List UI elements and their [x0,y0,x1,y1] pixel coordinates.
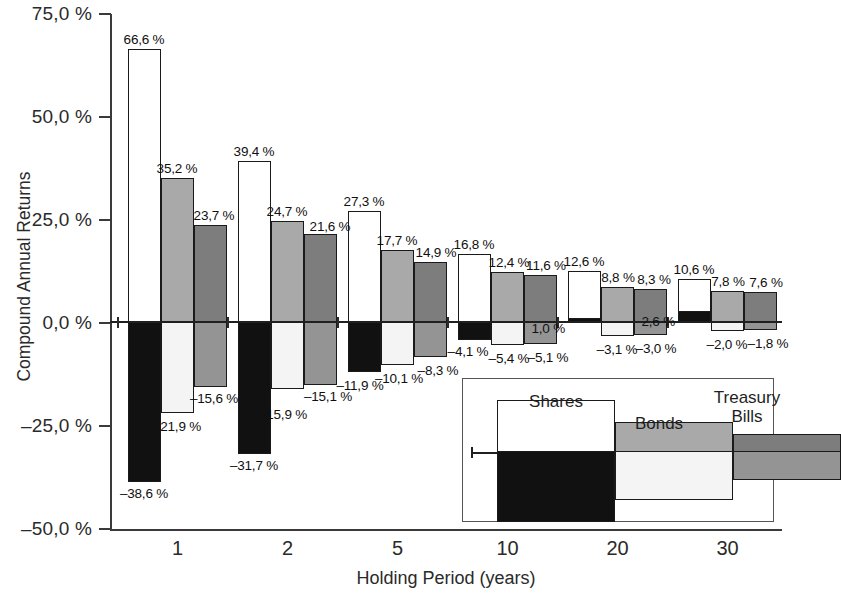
x-axis-tick-label: 10 [478,537,538,560]
x-axis-tick-label: 2 [258,537,318,560]
x-axis-tick [447,317,449,328]
bar-bonds-1-upper [161,178,194,323]
bar-bills-10-upper [524,275,557,323]
value-label-bonds-1-max: 35,2 % [157,161,198,176]
bar-shares-10-upper [458,254,491,323]
bar-bonds-20-lower [601,323,634,336]
value-label-bills-2-min: –15,1 % [304,389,352,404]
value-label-shares-1-max: 66,6 % [124,32,165,47]
bar-shares-1-upper [128,49,161,323]
value-label-bills-5-max: 14,9 % [416,245,457,260]
bar-bills-30-upper [744,292,777,323]
value-label-bills-1-max: 23,7 % [194,208,235,223]
y-axis-tick-label: 50,0 % [0,106,92,128]
bar-bonds-30-upper [711,291,744,323]
value-label-bonds-10-min: –5,4 % [489,351,530,366]
legend-label-treasury: TreasuryBills [688,388,806,426]
value-label-bills-30-min: –1,8 % [748,336,789,351]
bar-shares-30-upper [678,279,711,312]
value-label-shares-5-max: 27,3 % [344,194,385,209]
value-label-bonds-30-min: –2,0 % [707,337,748,352]
bar-bonds-5-upper [381,250,414,323]
value-label-shares-2-max: 39,4 % [234,144,275,159]
x-axis-tick-label: 20 [588,537,648,560]
bar-shares-2-upper [238,161,271,323]
value-label-shares-10-min: –4,1 % [448,344,489,359]
value-label-bills-30-max: 7,6 % [749,275,783,290]
y-axis-tick-label: 25,0 % [0,209,92,231]
bar-bonds-5-lower [381,323,414,365]
bar-shares-20-upper [568,271,601,319]
y-axis-tick-label: –25,0 % [0,415,92,437]
x-axis-tick-label: 30 [698,537,758,560]
x-axis-title: Holding Period (years) [110,568,782,589]
bar-shares-2-lower [238,323,271,454]
value-label-shares-1-min: –38,6 % [120,486,168,501]
value-label-bonds-20-min: –3,1 % [597,342,638,357]
x-axis-tick-label: 5 [368,537,428,560]
value-label-shares-20-max: 12,6 % [564,254,605,269]
bar-bonds-10-upper [491,272,524,323]
value-label-shares-20-min: 1,0 % [531,321,565,336]
bar-bills-30-lower [744,323,777,330]
legend-baseline-tick [471,447,473,458]
y-axis-tick [99,13,111,15]
bar-bills-1-lower [194,323,227,387]
value-label-shares-30-max: 10,6 % [674,262,715,277]
legend-label-shares: Shares [497,392,615,412]
value-label-bills-20-max: 8,3 % [637,272,671,287]
value-label-bills-10-max: 11,6 % [526,258,566,273]
bar-bills-5-upper [414,262,447,323]
legend-swatch-upper-2 [733,434,841,452]
value-label-bills-1-min: –15,6 % [190,391,238,406]
value-label-bonds-1-min: –21,9 % [153,419,201,434]
value-label-bonds-5-min: –10,1 % [375,371,423,386]
value-label-shares-10-max: 16,8 % [454,237,495,252]
zero-baseline [110,321,782,323]
value-label-bills-2-max: 21,6 % [310,219,351,234]
value-label-shares-2-min: –31,7 % [230,458,278,473]
bar-shares-10-lower [458,323,491,340]
y-axis-title: Compound Annual Returns [14,107,35,447]
bar-bonds-2-lower [271,323,304,389]
value-label-shares-30-min: 2,6 % [641,314,675,329]
bar-bills-1-upper [194,225,227,323]
bar-bonds-2-upper [271,221,304,323]
bar-bills-2-lower [304,323,337,385]
x-axis-tick [117,317,119,328]
legend-swatch-lower-0 [497,452,615,522]
y-axis-tick [99,219,111,221]
y-axis-line [110,14,112,530]
value-label-bills-10-min: –5,1 % [528,350,569,365]
bar-bonds-10-lower [491,323,524,345]
y-axis-tick-label: –50,0 % [0,518,92,540]
legend-swatch-lower-2 [733,452,841,480]
y-axis-tick [99,425,111,427]
value-label-bonds-2-min: –15,9 % [259,407,307,422]
y-axis-tick [99,116,111,118]
value-label-bills-5-min: –8,3 % [418,363,459,378]
bar-bills-2-upper [304,234,337,323]
value-label-bonds-2-max: 24,7 % [267,204,308,219]
bar-bonds-20-upper [601,287,634,323]
bar-bonds-30-lower [711,323,744,331]
y-axis-tick-label: 0,0 % [0,312,92,334]
value-label-bills-20-min: –3,0 % [636,341,677,356]
y-axis-tick-label: 75,0 % [0,3,92,25]
value-label-bonds-30-max: 7,8 % [711,274,745,289]
value-label-bonds-10-max: 12,4 % [489,255,530,270]
x-axis-tick-label: 1 [148,537,208,560]
x-axis-tick [227,317,229,328]
value-label-bonds-20-max: 8,8 % [601,270,635,285]
legend-swatch-lower-1 [615,452,733,500]
value-label-bonds-5-max: 17,7 % [377,233,418,248]
x-axis-line [110,529,782,531]
y-axis-tick [99,528,111,530]
x-axis-tick [337,317,339,328]
bar-bills-5-lower [414,323,447,357]
bar-shares-5-upper [348,211,381,323]
bar-shares-5-lower [348,323,381,372]
bar-shares-1-lower [128,323,161,482]
